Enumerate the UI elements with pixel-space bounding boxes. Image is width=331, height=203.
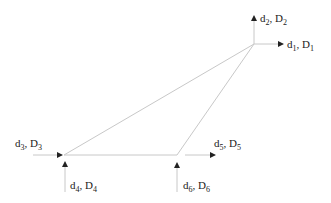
dof-label-4: d4, D4 (70, 179, 97, 194)
dof-label-2: d2, D2 (260, 12, 287, 27)
dof-label-3: d3, D3 (15, 137, 42, 152)
dof-label-6: d6, D6 (183, 179, 210, 194)
dof-labels: d1, D1d2, D2d3, D3d4, D4d5, D5d6, D6 (15, 12, 314, 194)
truss-dof-diagram: d1, D1d2, D2d3, D3d4, D4d5, D5d6, D6 (0, 0, 331, 203)
degree-of-freedom-arrows (33, 16, 283, 192)
dof-label-1: d1, D1 (287, 38, 314, 53)
dof-label-5: d5, D5 (214, 137, 241, 152)
